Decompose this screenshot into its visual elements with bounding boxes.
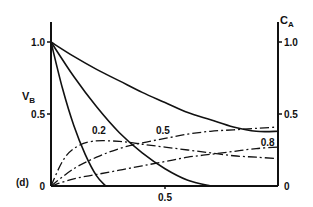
y-axis-title-left: VB: [22, 90, 35, 105]
y-tick-label-right: 0.5: [284, 109, 298, 120]
x-tick-label: 0.5: [158, 192, 172, 203]
y-tick-label-right: 0: [284, 181, 290, 192]
curve-label: 0.5: [156, 125, 170, 136]
y-axis-title-right: CA: [280, 14, 294, 29]
panel-label: (d): [16, 177, 29, 188]
curve-label: 0.2: [92, 125, 106, 136]
chart-figure: 00.51.000.51.00.5 VBCA(d)0.20.50.8: [0, 0, 313, 207]
y-tick-label-left: 1.0: [31, 37, 45, 48]
curve-label: 0.8: [261, 137, 275, 148]
series-group: [51, 42, 279, 186]
series-line-v-b-0-2-: [51, 42, 106, 186]
series-line-v-b-0-5-: [51, 42, 211, 186]
y-tick-label-right: 1.0: [284, 37, 298, 48]
series-line-v-b-0-8-: [51, 42, 279, 132]
series-line-c-a-0-2-: [51, 141, 279, 186]
y-tick-label-left: 0: [39, 181, 45, 192]
axes: 00.51.000.51.00.5: [31, 22, 298, 203]
y-tick-label-left: 0.5: [31, 109, 45, 120]
